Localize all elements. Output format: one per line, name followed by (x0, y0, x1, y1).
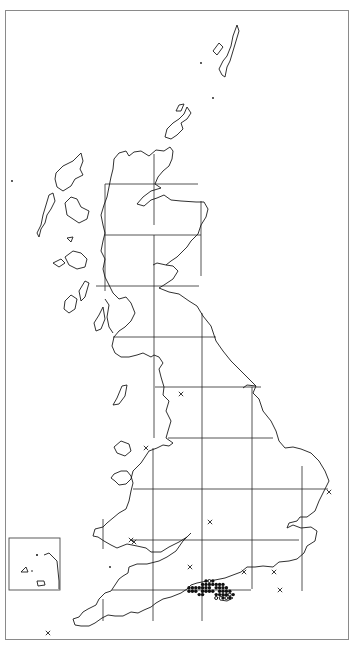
coast-shetland (219, 25, 239, 77)
record-filled-dot (187, 590, 190, 593)
record-filled-dot (221, 593, 224, 596)
record-filled-dot (191, 586, 194, 589)
coast-estuary (187, 533, 191, 537)
record-filled-dot (221, 596, 224, 599)
record-filled-dot (218, 586, 221, 589)
record-filled-dot (211, 590, 214, 593)
record-filled-dot (218, 583, 221, 586)
coast-rum (53, 259, 65, 267)
distribution-map (6, 11, 350, 641)
record-filled-dot (201, 590, 204, 593)
record-filled-dot (228, 596, 231, 599)
coast-anglesey (114, 441, 131, 456)
record-cross-north-wales (144, 446, 148, 450)
coast-st-kilda (11, 180, 13, 182)
record-filled-dot (194, 586, 197, 589)
coast-foula (200, 62, 202, 64)
record-cross-lancashire (179, 392, 183, 396)
record-filled-dot (232, 593, 235, 596)
record-filled-dot (225, 590, 228, 593)
record-open-dot (208, 580, 211, 583)
record-filled-dot (204, 586, 207, 589)
coast-normandy (44, 553, 59, 589)
coast-mull (65, 251, 87, 269)
coast-fair-isle (212, 97, 214, 99)
inset-frame (9, 538, 60, 590)
record-cross-kent (272, 570, 276, 574)
coast-jura (79, 281, 89, 301)
record-filled-dot (204, 583, 207, 586)
record-filled-dot (218, 593, 221, 596)
coast-orkney (165, 107, 191, 139)
coast-guernsey (21, 567, 28, 572)
coast-islay (64, 295, 77, 313)
map-frame (5, 10, 349, 640)
record-filled-dot (201, 593, 204, 596)
record-filled-dot (228, 590, 231, 593)
coast-alderney (36, 554, 38, 556)
record-open-dot (225, 597, 228, 600)
coast-lewis (55, 153, 83, 191)
record-cross-norfolk (327, 490, 331, 494)
grid-lines (96, 154, 328, 621)
record-filled-dot (208, 586, 211, 589)
coast-estuary (243, 385, 256, 388)
record-filled-dot (221, 583, 224, 586)
record-filled-dot (201, 583, 204, 586)
record-cross-sussex-coast (278, 588, 282, 592)
northern-isles (165, 25, 239, 139)
record-filled-dot (221, 590, 224, 593)
record-cross-surrey (242, 570, 246, 574)
record-filled-dot (211, 583, 214, 586)
record-filled-dot (208, 590, 211, 593)
record-filled-dot (218, 590, 221, 593)
coast-tiree (67, 237, 73, 242)
record-filled-dot (215, 586, 218, 589)
channel-islands-inset (9, 538, 111, 590)
record-filled-dot (221, 586, 224, 589)
record-filled-dot (191, 590, 194, 593)
record-filled-dot (204, 579, 207, 582)
record-filled-dot (215, 593, 218, 596)
coast-skye (65, 197, 89, 223)
coast-kintyre (105, 299, 113, 333)
coast-estuary (153, 263, 166, 265)
coast-isle-of-man (113, 385, 127, 405)
record-open-dot (228, 593, 231, 596)
record-filled-dot (198, 586, 201, 589)
record-filled-dot (215, 583, 218, 586)
record-filled-dot (194, 590, 197, 593)
record-filled-dot (198, 593, 201, 596)
record-cross-scilly (46, 631, 50, 635)
records-crosses (46, 392, 331, 635)
hebrides (11, 153, 89, 313)
coast-jersey (37, 581, 45, 586)
coast-arran (94, 307, 105, 331)
record-filled-dot (208, 583, 211, 586)
record-filled-dot (225, 586, 228, 589)
record-filled-dot (204, 590, 207, 593)
record-cross-somerset (188, 565, 192, 569)
coast-scilly (109, 566, 111, 568)
coast-shetland-west (213, 43, 223, 55)
record-filled-dot (201, 586, 204, 589)
record-open-dot (215, 597, 218, 600)
record-filled-dot (211, 579, 214, 582)
coast-orkney-north (176, 104, 184, 111)
record-filled-dot (187, 586, 190, 589)
coast-uists (37, 193, 55, 237)
coast-sark (31, 570, 33, 572)
record-cross-midlands (208, 520, 212, 524)
record-filled-dot (225, 593, 228, 596)
